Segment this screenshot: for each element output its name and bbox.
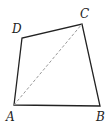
quadrilateral-diagram: A B C D	[0, 0, 107, 129]
quadrilateral-abcd	[14, 24, 100, 106]
label-a: A	[5, 110, 15, 124]
label-d: D	[11, 22, 22, 36]
label-c: C	[80, 7, 89, 21]
label-b: B	[95, 110, 105, 124]
diagonal-ac	[14, 24, 82, 105]
